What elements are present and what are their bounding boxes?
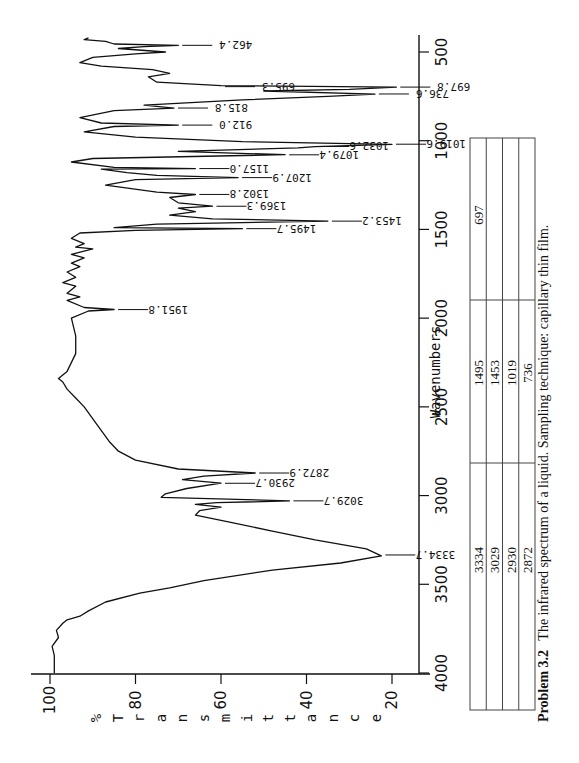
y-tick-label: 80: [127, 690, 145, 709]
peak-label: 815.8: [215, 101, 248, 114]
x-tick-label: 4000: [433, 654, 451, 692]
y-title-char: c: [346, 714, 362, 722]
y-title-char: s: [196, 714, 212, 722]
table-cell: 736: [520, 363, 535, 383]
table-cell: 2930: [504, 547, 519, 573]
x-tick-label: 3500: [433, 565, 451, 603]
peak-label: 1157.0: [230, 162, 270, 175]
y-title-char: m: [217, 714, 233, 722]
y-title-char: %: [88, 713, 104, 722]
table-cell: 697: [471, 205, 486, 225]
y-tick-label: 40: [298, 690, 316, 709]
peak-table: 3334302929302872149514531019736697: [470, 138, 535, 710]
y-title-char: n: [325, 714, 341, 722]
peak-label: 1302.8: [230, 187, 270, 200]
caption-text: The infrared spectrum of a liquid. Sampl…: [536, 225, 551, 641]
peak-label: 912.0: [219, 118, 252, 131]
y-title-char: a: [153, 714, 169, 722]
spectrum-line: [52, 38, 396, 673]
x-axis-title: Wavenumbers: [427, 326, 443, 419]
figure-caption: Problem 3.2 The infrared spectrum of a l…: [536, 225, 551, 722]
table-cell: 2872: [520, 547, 535, 573]
transmittance-ticks: 10080604020: [41, 674, 401, 714]
y-tick-label: 60: [212, 690, 230, 709]
table-cell: 3029: [487, 547, 502, 573]
peak-label: 462.4: [219, 38, 252, 51]
peak-label: 736.6: [416, 87, 449, 100]
y-title-char: e: [368, 714, 384, 722]
table-cell: 1495: [471, 360, 486, 386]
table-cell: 3334: [471, 547, 486, 574]
x-tick-label: 3000: [433, 476, 451, 514]
peak-label: 3334.7: [416, 548, 456, 561]
peak-label: 1369.3: [247, 199, 287, 212]
y-title-char: n: [174, 714, 190, 722]
peak-label: 1495.7: [277, 222, 317, 235]
peak-label: 1019.6: [426, 137, 466, 150]
y-title-char: r: [131, 714, 147, 722]
table-cell: 1453: [487, 360, 502, 386]
y-title-char: i: [239, 714, 255, 722]
x-tick-label: 1500: [433, 210, 451, 248]
y-tick-label: 20: [383, 690, 401, 709]
caption-label: Problem 3.2: [536, 650, 551, 722]
ir-spectrum-chart: 5001000150020002500300035004000 10080604…: [0, 0, 579, 763]
peak-label: 1951.8: [148, 303, 188, 316]
y-tick-label: 100: [41, 686, 59, 715]
peak-labels: 462.4695.3697.8736.6815.8912.01019.61032…: [118, 38, 470, 561]
y-title-char: t: [282, 714, 298, 722]
peak-label: 695.3: [262, 80, 295, 93]
x-tick-label: 500: [433, 38, 451, 67]
peak-label: 3029.7: [324, 494, 364, 507]
peak-label: 1207.9: [272, 171, 312, 184]
peak-label: 1453.2: [362, 214, 402, 227]
y-title-char: T: [110, 713, 126, 722]
table-cell: 1019: [504, 360, 519, 386]
peak-label: 2930.7: [255, 476, 295, 489]
y-axis-title-chars: %Transmittance: [88, 713, 384, 722]
y-title-char: t: [260, 714, 276, 722]
y-title-char: a: [303, 714, 319, 722]
peak-label: 1079.4: [319, 148, 359, 161]
